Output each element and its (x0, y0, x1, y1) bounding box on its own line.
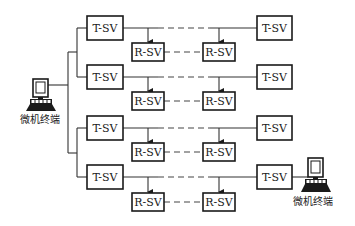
right-terminal-icon (292, 158, 331, 192)
svg-text:R-SV: R-SV (134, 95, 163, 108)
svg-text:R-SV: R-SV (205, 146, 234, 159)
svg-text:T-SV: T-SV (262, 171, 288, 184)
svg-text:T-SV: T-SV (92, 22, 118, 35)
svg-text:R-SV: R-SV (134, 196, 163, 209)
left-terminal-icon (26, 79, 56, 111)
svg-text:R-SV: R-SV (205, 196, 234, 209)
svg-text:T-SV: T-SV (262, 22, 288, 35)
right-terminal-label: 微机终端 (293, 195, 333, 207)
svg-text:R-SV: R-SV (205, 46, 234, 59)
svg-text:R-SV: R-SV (205, 95, 234, 108)
row-1: T-SV R-SV R-SV T-SV (87, 16, 292, 61)
left-terminal-label: 微机终端 (20, 113, 60, 125)
svg-text:T-SV: T-SV (262, 71, 288, 84)
row-2: T-SV R-SV R-SV T-SV (87, 65, 292, 110)
svg-text:T-SV: T-SV (262, 122, 288, 135)
svg-text:T-SV: T-SV (92, 171, 118, 184)
row-4: T-SV R-SV R-SV T-SV (87, 165, 292, 211)
row-3: T-SV R-SV R-SV T-SV (87, 116, 292, 161)
svg-text:T-SV: T-SV (92, 71, 118, 84)
svg-text:R-SV: R-SV (134, 46, 163, 59)
svg-text:R-SV: R-SV (134, 146, 163, 159)
left-bus (48, 28, 87, 177)
diagram-canvas: 微机终端 微机终端 T-SV R-SV R-SV T-SV (0, 0, 355, 226)
svg-text:T-SV: T-SV (92, 122, 118, 135)
